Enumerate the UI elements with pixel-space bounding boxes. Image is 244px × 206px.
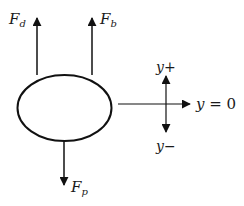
y-negative-label: y− [155, 138, 176, 154]
free-body-diagram: Fd Fb Fp y = 0 y+ y− [0, 0, 244, 206]
force-b-label: Fb [99, 10, 117, 29]
y-positive-label: y+ [155, 59, 176, 75]
diagram-svg: Fd Fb Fp y = 0 y+ y− [0, 0, 244, 206]
force-p-label: Fp [70, 178, 88, 197]
y-zero-label: y = 0 [195, 95, 236, 113]
force-d-label: Fd [8, 10, 26, 29]
body-ellipse [18, 75, 112, 141]
